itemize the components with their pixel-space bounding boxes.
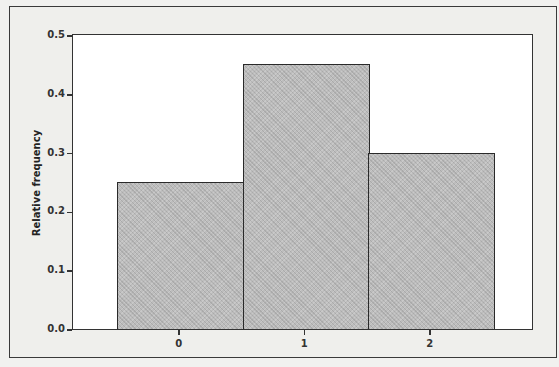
y-tick-label: 0.3 (35, 147, 65, 158)
y-tick (67, 153, 72, 155)
y-tick-label: 0.1 (35, 264, 65, 275)
x-tick-label: 0 (169, 338, 189, 349)
y-tick-label: 0.0 (35, 323, 65, 334)
x-tick (429, 330, 431, 335)
x-tick (178, 330, 180, 335)
y-tick-label: 0.2 (35, 205, 65, 216)
y-tick (67, 94, 72, 96)
y-tick (67, 329, 72, 331)
y-tick (67, 270, 72, 272)
bar-2 (368, 153, 495, 329)
y-tick-label: 0.5 (35, 29, 65, 40)
y-tick (67, 35, 72, 37)
y-tick-label: 0.4 (35, 88, 65, 99)
x-tick-label: 1 (294, 338, 314, 349)
x-tick-label: 2 (420, 338, 440, 349)
x-tick (304, 330, 306, 335)
bar-1 (243, 64, 370, 329)
bar-0 (117, 182, 244, 329)
plot-area (72, 34, 533, 330)
y-tick (67, 212, 72, 214)
